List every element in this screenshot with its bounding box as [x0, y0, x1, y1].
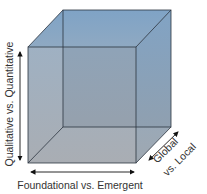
horizontal-axis-label: Foundational vs. Emergent	[17, 179, 143, 191]
vertical-axis-label: Qualitative vs. Quantitative	[3, 41, 15, 166]
cube-front-face	[28, 47, 136, 163]
cube-diagram: Qualitative vs. Quantitative Foundationa…	[0, 0, 207, 194]
